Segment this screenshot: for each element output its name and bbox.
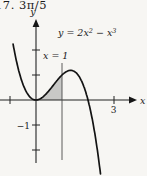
x-axis-label: x: [140, 95, 146, 106]
y-tick-label-neg1: −1: [17, 121, 30, 131]
equation-label: y = 2x2 − x3: [57, 27, 116, 39]
y-axis-arrowhead-icon: [33, 19, 40, 27]
function-curve: [13, 44, 100, 174]
function-graph: x y 3 −1 y = 2x2 − x3 x = 1: [0, 0, 147, 176]
y-axis-label: y: [29, 6, 36, 17]
textbook-figure-page: 17. 3π/5 x y 3 −1 y = 2x2 − x3 x = 1: [0, 0, 147, 176]
x-axis-arrowhead-icon: [129, 97, 137, 104]
x-tick-label-3: 3: [111, 105, 117, 115]
region-boundary-label: x = 1: [43, 50, 68, 61]
